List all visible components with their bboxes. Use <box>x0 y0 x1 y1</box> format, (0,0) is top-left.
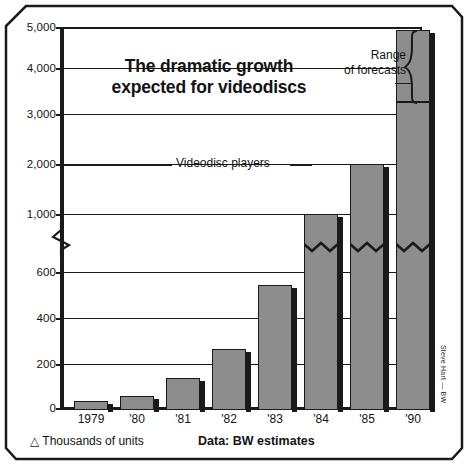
x-tick-1979: 1979 <box>68 412 114 426</box>
gridline-3000 <box>62 114 422 115</box>
bar-break-90 <box>396 239 430 255</box>
bar-shadow-90 <box>430 33 435 412</box>
chart-title-line1: The dramatic growth <box>84 56 334 77</box>
bar-shadow-84 <box>338 217 343 412</box>
bar-shadow-83 <box>292 288 297 412</box>
callout-videodisc-players: Videodisc players <box>62 156 422 174</box>
x-axis-labels: 1979 '80 '81 '82 '83 '84 '85 '90 <box>62 412 422 430</box>
bar-shadow-85 <box>384 167 389 412</box>
y-tick-1000: 1,000 <box>27 208 56 220</box>
chart-title: The dramatic growth expected for videodi… <box>84 56 334 98</box>
callout-range-line1: Range <box>336 48 406 63</box>
bar-shadow-82 <box>246 352 251 412</box>
y-tick-4000: 4,000 <box>27 62 56 74</box>
callout-range-of-forecasts: Range of forecasts <box>336 48 406 78</box>
x-tick-84: '84 <box>298 412 344 426</box>
bar-80 <box>120 396 154 410</box>
bar-81 <box>166 378 200 410</box>
bar-break-85 <box>350 239 384 255</box>
callout-leader-right <box>290 165 312 166</box>
callout-label-videodisc-players: Videodisc players <box>176 156 270 170</box>
y-tick-2000: 2,000 <box>27 158 56 170</box>
x-tick-83: '83 <box>252 412 298 426</box>
units-note-text: Thousands of units <box>42 434 143 448</box>
y-tick-400: 400 <box>37 312 57 324</box>
callout-range-line2: of forecasts <box>336 63 406 78</box>
bar-shadow-80 <box>154 399 159 412</box>
bar-1979 <box>74 401 108 410</box>
x-tick-81: '81 <box>160 412 206 426</box>
callout-leader-left <box>62 165 172 166</box>
chart-figure: 5,000 4,000 3,000 2,000 1,000 600 400 20… <box>0 0 468 465</box>
x-tick-80: '80 <box>114 412 160 426</box>
bar-82 <box>212 349 246 410</box>
y-axis-labels: 5,000 4,000 3,000 2,000 1,000 600 400 20… <box>0 0 56 465</box>
bar-shadow-1979 <box>108 404 113 412</box>
bar-shadow-81 <box>200 381 205 412</box>
gridline-5000 <box>62 27 422 28</box>
x-tick-82: '82 <box>206 412 252 426</box>
triangle-icon: △ <box>30 434 39 448</box>
bar-85 <box>350 164 384 410</box>
data-source-note: Data: BW estimates <box>198 434 315 448</box>
units-note: △ Thousands of units <box>30 434 144 448</box>
bar-break-84 <box>304 239 338 255</box>
range-brace-icon <box>404 30 420 104</box>
y-tick-5000: 5,000 <box>27 21 56 33</box>
y-tick-200: 200 <box>37 358 57 370</box>
x-tick-90: '90 <box>390 412 436 426</box>
y-tick-600: 600 <box>37 266 57 278</box>
y-tick-3000: 3,000 <box>27 108 56 120</box>
x-tick-85: '85 <box>344 412 390 426</box>
chart-title-line2: expected for videodiscs <box>84 77 334 98</box>
artist-credit: Steve Hart — BW <box>440 345 447 435</box>
bar-83 <box>258 285 292 410</box>
